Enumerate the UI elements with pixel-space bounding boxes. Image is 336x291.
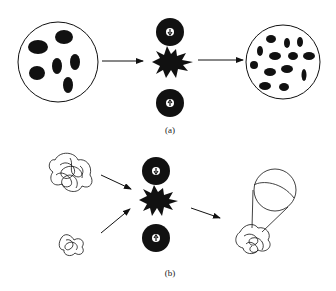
large-particle-circle [18, 22, 98, 102]
arrow-icon [101, 175, 131, 189]
arrow-icon [191, 208, 220, 218]
panel-a [18, 18, 320, 117]
impact-source-bottom [142, 224, 170, 252]
small-particle-circle [246, 25, 320, 99]
small-polymer-coil [59, 235, 83, 256]
panel-a-label: (a) [155, 125, 185, 135]
impact-source-top [142, 157, 170, 185]
panel-b-label: (b) [155, 268, 185, 278]
panel-b [49, 153, 296, 255]
arrow-icon [101, 209, 130, 233]
coil-with-balloon [236, 169, 296, 254]
explosion-icon [152, 46, 193, 78]
impact-source-bottom [156, 89, 184, 117]
impact-source-top [156, 18, 184, 46]
explosion-icon [139, 185, 178, 216]
large-polymer-coil [49, 153, 92, 191]
diagram-canvas [0, 0, 336, 291]
